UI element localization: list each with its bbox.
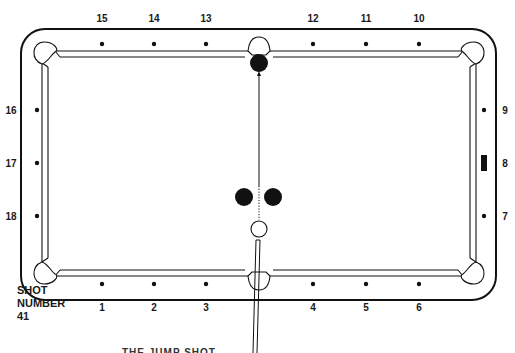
caption-shot-number: 41 <box>17 310 65 323</box>
diamond-marker-14 <box>152 42 156 46</box>
pocket-bottom-left <box>34 262 57 284</box>
cue-stick <box>253 240 260 353</box>
diamond-label-15: 15 <box>96 13 108 24</box>
cushion-left <box>42 63 48 262</box>
left-blocker-ball <box>235 188 253 206</box>
diamond-marker-2 <box>152 282 156 286</box>
diamond-label-13: 13 <box>200 13 212 24</box>
diamond-label-18: 18 <box>5 211 17 222</box>
pocket-bottom-right <box>461 262 484 284</box>
caption-line-1: SHOT <box>17 284 65 297</box>
diamond-marker-3 <box>204 282 208 286</box>
diamond-marker-9 <box>482 108 486 112</box>
cushion-bottom-right <box>270 270 463 276</box>
diamond-label-5: 5 <box>363 302 369 313</box>
diamond-marker-5 <box>364 282 368 286</box>
diamond-label-16: 16 <box>5 105 17 116</box>
pocket-top-right <box>461 42 484 64</box>
diamond-marker-highlighted-8 <box>481 155 487 171</box>
clipped-shot-title: THE JUMP SHOT <box>122 348 216 353</box>
cushion-right <box>470 63 476 262</box>
diamond-marker-6 <box>417 282 421 286</box>
shot-caption: SHOT NUMBER 41 <box>17 284 65 323</box>
diamond-marker-11 <box>364 42 368 46</box>
diamond-marker-15 <box>100 42 104 46</box>
diamond-label-6: 6 <box>416 302 422 313</box>
diamond-label-7: 7 <box>502 211 508 222</box>
cue-ball <box>251 221 267 237</box>
diamond-label-14: 14 <box>148 13 160 24</box>
diamond-marker-16 <box>35 108 39 112</box>
cushion-top-right <box>270 51 463 57</box>
diamond-marker-1 <box>100 282 104 286</box>
diamond-marker-17 <box>35 161 39 165</box>
right-blocker-ball <box>264 188 282 206</box>
diamond-label-8: 8 <box>502 158 508 169</box>
diamond-marker-4 <box>311 282 315 286</box>
cushion-top-left <box>55 51 248 57</box>
target-ball <box>250 54 268 72</box>
diamond-label-9: 9 <box>502 105 508 116</box>
diamond-marker-13 <box>204 42 208 46</box>
diamond-markers <box>35 42 487 286</box>
diamond-label-17: 17 <box>5 158 17 169</box>
diamond-marker-7 <box>482 214 486 218</box>
diamond-marker-10 <box>417 42 421 46</box>
diamond-marker-18 <box>35 214 39 218</box>
diamond-label-10: 10 <box>413 13 425 24</box>
diamond-label-4: 4 <box>310 302 316 313</box>
diamond-label-3: 3 <box>203 302 209 313</box>
caption-line-2: NUMBER <box>17 297 65 310</box>
cushion-bottom-left <box>55 270 248 276</box>
pocket-top-side <box>248 37 270 55</box>
diamond-marker-12 <box>311 42 315 46</box>
diamond-label-2: 2 <box>151 302 157 313</box>
diamond-label-11: 11 <box>361 13 372 24</box>
diamond-label-1: 1 <box>99 302 105 313</box>
pocket-top-left <box>34 42 57 64</box>
pool-table-diagram: 123456789101112131415161718 <box>0 0 515 353</box>
diamond-label-12: 12 <box>307 13 319 24</box>
